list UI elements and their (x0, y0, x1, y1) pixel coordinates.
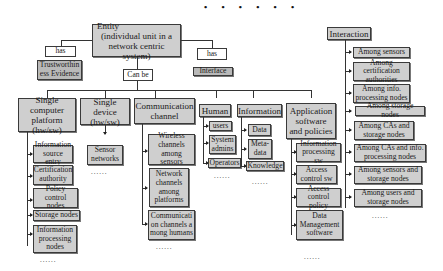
child-access-control-policy: Access control policy (296, 188, 341, 207)
interaction-node: Interaction (327, 27, 371, 40)
trustworthiness-evidence-node: Trustworthiness Evidence (37, 60, 82, 80)
child-data: Data (248, 124, 271, 136)
interaction-among-users-storage-nodes: Among users and storage nodes (354, 189, 422, 207)
child-access-control-sw: Access control sw (296, 165, 337, 184)
ellipsis: ...... (91, 168, 108, 176)
category-communication-channel: Communication channel (134, 98, 195, 124)
connector (142, 124, 143, 224)
ellipsis: ...... (252, 178, 269, 186)
child-operators: Operators (208, 158, 241, 168)
child-certification-authority: Certification authority (33, 165, 73, 185)
child-network-channels: Network channels among platforms (149, 168, 189, 207)
ellipsis: ...... (40, 256, 57, 264)
ellipsis: ...... (304, 253, 321, 261)
connector (27, 132, 28, 246)
connector (181, 40, 213, 41)
child-storage-nodes: Storage nodes (33, 210, 80, 221)
child-knowledge: Knowledge (246, 161, 284, 171)
category-single-computer-platform: Single computer platform (hw/sw) (18, 98, 76, 132)
child-data-management-software: Data Management software (296, 210, 343, 240)
connector (203, 117, 204, 163)
connector (137, 57, 138, 69)
category-application-software-policies: Application software and policies (286, 103, 336, 139)
has-left-label: has (45, 46, 76, 57)
ellipsis: ...... (372, 212, 389, 220)
category-bus (47, 90, 312, 91)
can-be-label: Can be (123, 69, 153, 81)
interaction-among-sensors: Among sensors (353, 47, 410, 58)
interaction-among-certification-authorities: Among certification authorities (353, 62, 410, 81)
child-information-processing-sw: Information processing sw (296, 143, 341, 162)
ellipsis: ...... (156, 243, 173, 251)
has-right-label: has (197, 48, 227, 60)
child-information-source-entry: Information source entry (33, 145, 73, 163)
connector (155, 90, 156, 98)
connector (212, 40, 213, 48)
connector (61, 40, 92, 41)
entity-subtitle-1: (individual unit in a (101, 31, 172, 41)
connector (311, 90, 312, 98)
child-users: users (209, 121, 232, 131)
interaction-among-info-processing-nodes: Among info. processing nodes (353, 84, 410, 103)
connector (253, 90, 254, 98)
category-single-device: Single device (hw/sw) (80, 98, 130, 125)
child-sensor-networks: Sensor networks (87, 145, 123, 165)
connector (216, 90, 217, 98)
category-human: Human (199, 104, 231, 117)
interface-node: Interface (193, 67, 233, 76)
child-information-processing-nodes: Information processing nodes (33, 225, 77, 253)
child-meta-data: Meta-data (248, 139, 272, 159)
interaction-among-sensors-storage-nodes: Among sensors and storage nodes (354, 166, 422, 184)
interaction-among-cas-info-processing-nodes: Among CAs and info. processing nodes (354, 144, 426, 162)
interaction-among-storage-nodes: Among storage nodes (355, 106, 425, 116)
child-communication-channels-humans: Communication channels among humans (148, 210, 195, 240)
entity-title: Entity (94, 21, 119, 31)
ellipsis: ...... (214, 172, 231, 180)
child-policy-control-nodes: Policy control nodes (33, 188, 78, 208)
connector (345, 40, 346, 208)
connector (137, 81, 138, 90)
entity-root-node: Entity (individual unit in a network cen… (92, 24, 181, 57)
category-information: Information (237, 104, 282, 117)
interaction-among-cas-storage-nodes: Among CAs and storage nodes (354, 121, 414, 140)
child-system-admins: System admins (209, 135, 236, 154)
child-wireless-channels: Wireless channels among sensors (148, 134, 195, 165)
connector (241, 117, 242, 166)
top-ellipsis: • • • • • • (204, 2, 300, 12)
connector (291, 139, 292, 235)
